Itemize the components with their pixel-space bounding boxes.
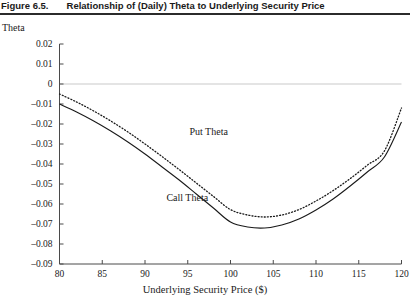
y-tick-label: –0.04 [30, 159, 53, 169]
series-annotations: Put ThetaCall Theta [166, 126, 228, 203]
chart-plot-area: 0.020.010–0.01–0.02–0.03–0.04–0.05–0.06–… [0, 0, 410, 304]
x-axis-ticks: 80859095100105110115120 [55, 260, 409, 279]
x-tick-label: 100 [223, 269, 238, 279]
x-tick-label: 95 [183, 269, 193, 279]
y-tick-label: –0.03 [30, 139, 53, 149]
axis-lines [60, 44, 402, 264]
chart-series [60, 94, 402, 228]
x-tick-label: 80 [55, 269, 65, 279]
x-tick-label: 105 [266, 269, 281, 279]
y-tick-label: –0.07 [30, 219, 53, 229]
y-axis-ticks: 0.020.010–0.01–0.02–0.03–0.04–0.05–0.06–… [30, 39, 63, 269]
x-tick-label: 85 [98, 269, 108, 279]
y-tick-label: –0.08 [30, 239, 53, 249]
x-tick-label: 90 [140, 269, 150, 279]
series-line-call-theta [60, 104, 402, 228]
series-line-put-theta [60, 94, 402, 217]
y-tick-label: –0.01 [30, 99, 53, 109]
annotation-call-theta: Call Theta [166, 192, 208, 203]
y-tick-label: –0.02 [30, 119, 53, 129]
y-tick-label: 0 [48, 79, 53, 89]
y-tick-label: –0.05 [30, 179, 53, 189]
chart-svg: 0.020.010–0.01–0.02–0.03–0.04–0.05–0.06–… [0, 0, 410, 304]
y-tick-label: –0.06 [30, 199, 53, 209]
y-tick-label: –0.09 [30, 259, 53, 269]
y-tick-label: 0.01 [36, 59, 53, 69]
x-tick-label: 120 [394, 269, 409, 279]
y-tick-label: 0.02 [36, 39, 53, 49]
annotation-put-theta: Put Theta [189, 126, 228, 137]
x-tick-label: 110 [309, 269, 323, 279]
x-tick-label: 115 [352, 269, 366, 279]
